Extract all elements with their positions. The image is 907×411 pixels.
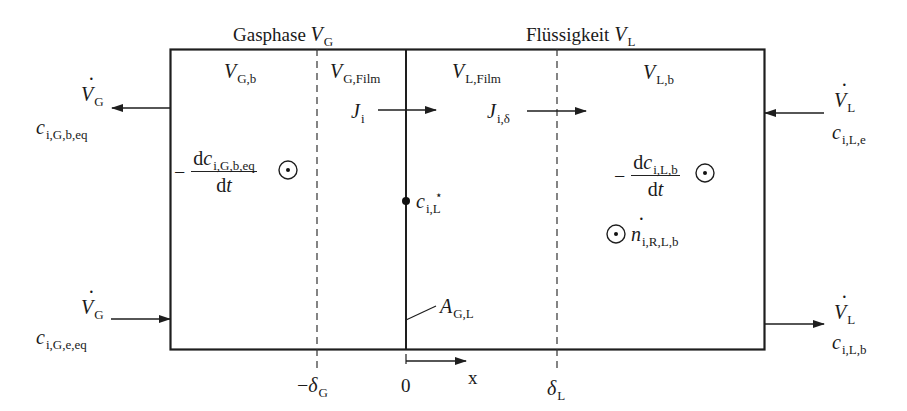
liquid-film-volume-label: VL,Film	[452, 61, 501, 81]
axis-tick-minus-delta-g: −δG	[297, 375, 328, 395]
gas-inlet-flow-label: VG	[81, 297, 104, 317]
liquid-inlet-flow-label: VL	[834, 90, 855, 110]
gas-accumulation-term: − dci,G,b,eq dt	[174, 148, 257, 195]
gas-film-volume-label: VG,Film	[330, 61, 380, 81]
liquid-inlet-concentration-label: ci,L,e	[832, 122, 866, 142]
gas-phase-title-text: Gasphase	[233, 24, 306, 45]
gas-phase-title: Gasphase VG	[233, 24, 333, 44]
liquid-accumulation-circle-dot-icon	[696, 164, 714, 182]
liquid-phase-volume-symbol: VL	[614, 23, 635, 45]
interface-flux-label: Ji	[351, 101, 365, 121]
gas-outlet-flow-label: VG	[81, 84, 104, 104]
gas-outlet-concentration-label: ci,G,b,eq	[36, 117, 87, 137]
axis-tick-delta-l: δL	[547, 378, 565, 398]
liquid-outlet-concentration-label: ci,L,b	[832, 332, 866, 352]
axis-tick-zero: 0	[401, 376, 411, 395]
interface-area-label: AG,L	[440, 296, 474, 316]
reaction-rate-label: ni,R,L,b	[631, 224, 678, 244]
liquid-accumulation-term: − dci,L,b dt	[614, 152, 680, 199]
gas-bulk-volume-label: VG,b	[224, 61, 256, 81]
liquid-outlet-flow-label: VL	[834, 302, 855, 322]
area-leader-line	[406, 306, 436, 320]
gas-inlet-concentration-label: ci,G,e,eq	[36, 327, 87, 347]
liquid-phase-title-text: Flüssigkeit	[526, 24, 609, 45]
x-axis-label: x	[468, 368, 478, 387]
interface-concentration-label: ci,L⋆	[416, 191, 443, 211]
liquid-bulk-volume-label: VL,b	[643, 62, 674, 82]
reaction-circle-dot-icon	[607, 225, 625, 243]
film-flux-label: Ji,δ	[487, 101, 510, 121]
liquid-phase-title: Flüssigkeit VL	[526, 24, 635, 44]
interface-concentration-point	[402, 197, 410, 205]
gas-accumulation-circle-dot-icon	[279, 161, 297, 179]
gas-phase-volume-symbol: VG	[311, 23, 334, 45]
